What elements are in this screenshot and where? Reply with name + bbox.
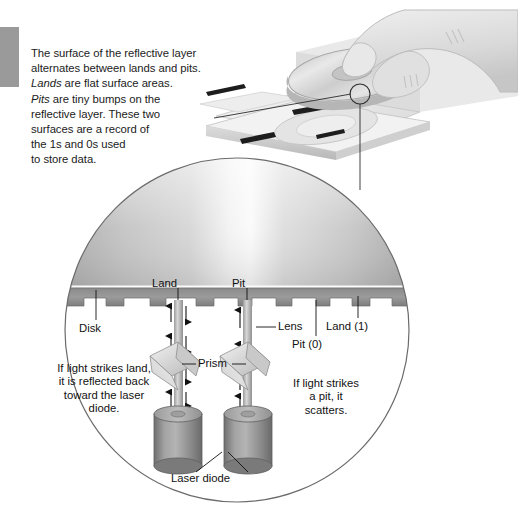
laser-diode-cylinder-land bbox=[154, 406, 202, 474]
laser-diode-cylinder-pit bbox=[224, 406, 272, 474]
diode-aperture-land bbox=[171, 411, 185, 417]
caption-line-2: alternates between lands and pits. bbox=[31, 62, 201, 74]
caption-term-pits: Pits bbox=[31, 93, 50, 105]
note-pit-scatter: If light strikes a pit, it scatters. bbox=[280, 377, 372, 417]
note-land-line-1: If light strikes land, bbox=[57, 362, 151, 374]
caption-line-1: The surface of the reflective layer bbox=[31, 47, 196, 59]
note-pit-line-1: If light strikes bbox=[293, 377, 359, 389]
note-land-line-2: it is reflected back bbox=[59, 375, 149, 387]
label-disk: Disk bbox=[79, 322, 101, 336]
label-laser-diode: Laser diode bbox=[171, 472, 230, 486]
label-land: Land bbox=[152, 277, 177, 291]
caption-line-3: are flat surface areas. bbox=[62, 77, 173, 89]
label-pit: Pit bbox=[232, 277, 245, 291]
note-land-line-3: toward the laser bbox=[64, 389, 144, 401]
label-pit-zero: Pit (0) bbox=[292, 338, 322, 352]
caption-line-6: surfaces are a record of bbox=[31, 123, 149, 135]
caption-line-7: the 1s and 0s used bbox=[31, 138, 126, 150]
caption-term-lands: Lands bbox=[31, 77, 62, 89]
caption-line-5: reflective layer. These two bbox=[31, 108, 160, 120]
diode-aperture-pit bbox=[241, 411, 255, 417]
caption-line-4: are tiny bumps on the bbox=[50, 93, 161, 105]
note-pit-line-3: scatters. bbox=[305, 404, 348, 416]
note-pit-line-2: a pit, it bbox=[309, 390, 342, 402]
label-lens: Lens bbox=[278, 320, 303, 334]
label-land-one: Land (1) bbox=[326, 320, 368, 334]
note-land-reflection: If light strikes land, it is reflected b… bbox=[48, 362, 160, 416]
caption-line-8: to store data. bbox=[31, 153, 96, 165]
figure-canvas: The surface of the reflective layer alte… bbox=[0, 0, 518, 532]
label-prism: Prism bbox=[198, 357, 227, 371]
figure-caption: The surface of the reflective layer alte… bbox=[31, 46, 223, 168]
note-land-line-4: diode. bbox=[89, 402, 120, 414]
reflective-layer bbox=[60, 288, 420, 306]
disc-body-shading bbox=[60, 158, 420, 288]
